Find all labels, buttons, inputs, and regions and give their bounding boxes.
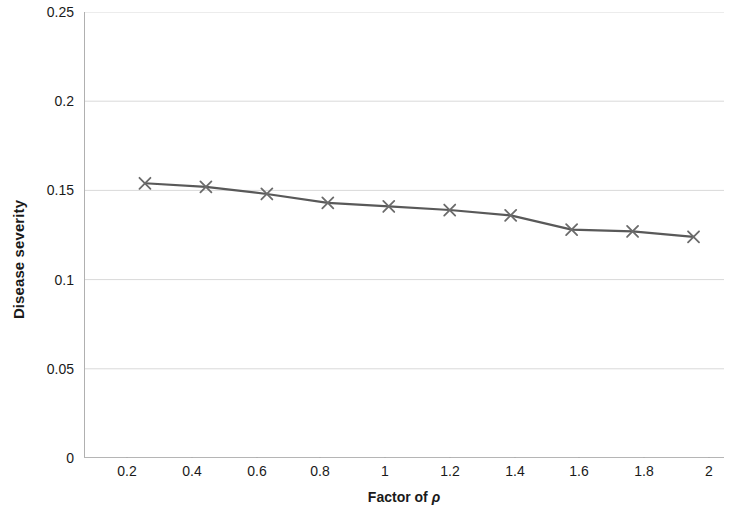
x-tick-label: 0.4 bbox=[170, 464, 214, 478]
x-tick-label: 1.4 bbox=[493, 464, 537, 478]
x-tick-label: 1.2 bbox=[428, 464, 472, 478]
chart-root: Disease severity 0 0.05 0.1 0.15 0.2 0.2… bbox=[0, 0, 739, 519]
x-tick-label: 0.2 bbox=[105, 464, 149, 478]
x-tick-label: 2 bbox=[687, 464, 731, 478]
x-tick-label: 1.8 bbox=[622, 464, 666, 478]
x-axis-title-text: Factor of bbox=[368, 489, 432, 505]
x-tick-label: 1 bbox=[363, 464, 407, 478]
x-axis-title: Factor of ρ bbox=[84, 489, 724, 505]
x-tick-label: 1.6 bbox=[557, 464, 601, 478]
x-axis-tick-labels: 0.2 0.4 0.6 0.8 1 1.2 1.4 1.6 1.8 2 bbox=[0, 0, 739, 519]
x-tick-label: 0.6 bbox=[235, 464, 279, 478]
rho-symbol: ρ bbox=[432, 489, 440, 505]
x-tick-label: 0.8 bbox=[298, 464, 342, 478]
